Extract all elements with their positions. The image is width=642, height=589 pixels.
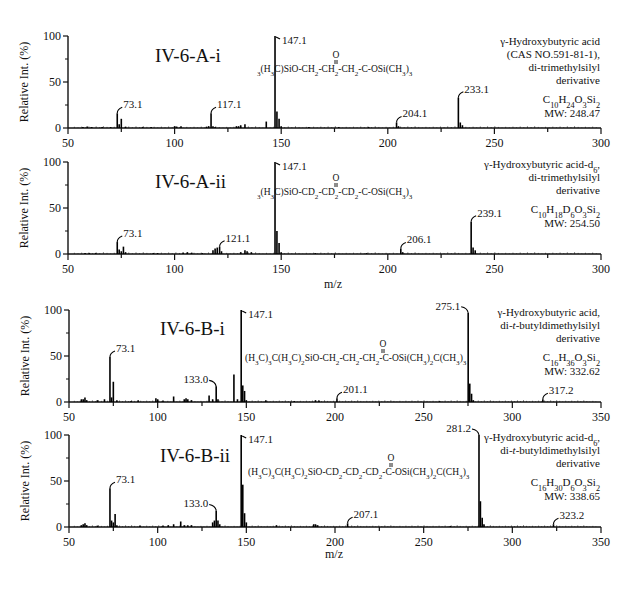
x-tick-label: 200	[379, 136, 397, 150]
peak-label: 275.1	[435, 300, 468, 313]
x-tick-label: 100	[149, 535, 167, 549]
svg-text:207.1: 207.1	[354, 508, 379, 520]
peak-label: 117.1	[211, 98, 241, 113]
peak-label: 323.2	[553, 509, 584, 524]
x-tick-label: 50	[63, 410, 75, 424]
x-tick-label: 300	[503, 535, 521, 549]
chemical-structure: 3(H3C)SiO-CD2-CD2-CD2-C-OSi(CH3)3O	[257, 173, 413, 201]
compound-name-line: di-trimethylsilyl	[529, 61, 601, 73]
svg-text:121.1: 121.1	[226, 232, 251, 244]
x-tick-label: 150	[237, 410, 255, 424]
compound-name-line: derivative	[556, 74, 600, 86]
peak-label: 147.1	[276, 160, 307, 172]
svg-text:233.1: 233.1	[464, 83, 489, 95]
compound-name-line: di-t-butyldimethylsilyl	[500, 444, 600, 456]
spectrum-panel-IV-6-A-i: 05010050100150200250300Relative Int. (%)…	[17, 29, 610, 150]
peak-label: 73.1	[110, 473, 135, 488]
svg-text:O: O	[388, 453, 395, 463]
x-tick-label: 350	[592, 410, 610, 424]
spectrum-panel-IV-6-A-ii: 05010050100150200250300Relative Int. (%)…	[17, 155, 610, 291]
x-tick-label: 50	[63, 535, 75, 549]
peak-label: 201.1	[337, 383, 368, 398]
panel-title: IV-6-A-i	[155, 45, 221, 66]
peak-label: 73.1	[110, 342, 135, 357]
y-tick-label: 0	[55, 121, 61, 135]
y-tick-label: 0	[56, 520, 62, 534]
svg-text:(H3C)3C(H3C)2SiO-CD2-CD2-CD2-C: (H3C)3C(H3C)2SiO-CD2-CD2-CD2-C-OSi(CH3)2…	[248, 467, 470, 481]
svg-text:133.0: 133.0	[183, 497, 208, 509]
svg-text:73.1: 73.1	[123, 227, 142, 239]
svg-text:201.1: 201.1	[343, 383, 368, 395]
spectrum-panel-IV-6-B-i: 05010050100150200250300350Relative Int. …	[18, 300, 610, 424]
peak-label: 121.1	[220, 232, 251, 247]
svg-text:3(H3C)SiO-CD2-CD2-CD2-C-OSi(CH: 3(H3C)SiO-CD2-CD2-CD2-C-OSi(CH3)3	[257, 187, 413, 201]
x-tick-label: 100	[149, 410, 167, 424]
x-tick-label: 150	[272, 262, 290, 276]
compound-info: γ-Hydroxybutyric acid(CAS NO.591-81-1),d…	[499, 35, 600, 119]
x-axis-title: m/z	[324, 277, 342, 291]
y-tick-label: 100	[43, 155, 61, 169]
mass-spectra-figure: 05010050100150200250300Relative Int. (%)…	[0, 0, 642, 589]
svg-text:117.1: 117.1	[217, 98, 241, 110]
svg-text:73.1: 73.1	[116, 342, 135, 354]
svg-text:O: O	[333, 173, 340, 183]
peak-label: 206.1	[401, 233, 432, 248]
svg-text:147.1: 147.1	[248, 308, 273, 320]
y-axis-title: Relative Int. (%)	[18, 441, 32, 521]
y-tick-label: 0	[56, 395, 62, 409]
y-tick-label: 100	[43, 29, 61, 43]
panel-title: IV-6-B-i	[160, 318, 225, 339]
compound-name-line: γ-Hydroxybutyric acid,	[496, 306, 600, 318]
x-tick-label: 50	[62, 136, 74, 150]
peak-label: 147.1	[242, 433, 273, 445]
svg-text:317.2: 317.2	[549, 384, 574, 396]
y-axis-title: Relative Int. (%)	[17, 168, 31, 248]
compound-name-line: (CAS NO.591-81-1),	[507, 48, 600, 61]
compound-info: γ-Hydroxybutyric acid-d6,di-t-butyldimet…	[483, 431, 600, 502]
svg-text:133.0: 133.0	[183, 373, 208, 385]
x-tick-label: 350	[592, 535, 610, 549]
peak-label: 133.0	[183, 497, 216, 510]
svg-text:73.1: 73.1	[123, 98, 142, 110]
chemical-structure: 3(H3C)SiO-CH2-CH2-CH2-C-OSi(CH3)3O	[257, 50, 413, 78]
spectrum-panel-IV-6-B-ii: 05010050100150200250300350Relative Int. …	[18, 422, 610, 561]
svg-text:73.1: 73.1	[116, 473, 135, 485]
compound-name-line: di-t-butyldimethylsilyl	[500, 319, 600, 331]
peak-label: 207.1	[348, 508, 379, 523]
compound-name-line: derivative	[556, 457, 600, 469]
y-tick-label: 50	[49, 201, 61, 215]
x-tick-label: 100	[166, 136, 184, 150]
compound-info: γ-Hydroxybutyric acid,di-t-butyldimethyl…	[496, 306, 600, 377]
y-tick-label: 50	[49, 75, 61, 89]
compound-name-line: di-trimethylsilyl	[529, 171, 601, 183]
peak-label: 147.1	[276, 34, 307, 46]
molecular-weight: MW: 338.65	[544, 490, 600, 502]
spectra-svg: 05010050100150200250300Relative Int. (%)…	[0, 0, 642, 589]
x-tick-label: 150	[237, 535, 255, 549]
chemical-structure: (H3C)3C(H3C)2SiO-CD2-CD2-CD2-C-OSi(CH3)2…	[248, 453, 470, 481]
peak-label: 281.2	[446, 422, 479, 435]
x-tick-label: 250	[485, 136, 503, 150]
svg-text:281.2: 281.2	[446, 422, 471, 434]
y-tick-label: 50	[50, 349, 62, 363]
chemical-structure: (H3C)3C(H3C)2SiO-CH2-CH2-CH2-C-OSi(CH3)2…	[245, 339, 467, 367]
peak-label: 73.1	[117, 227, 142, 242]
peaks	[81, 435, 553, 527]
svg-text:O: O	[380, 339, 387, 349]
peak-label: 147.1	[242, 308, 273, 320]
peak-label: 73.1	[117, 98, 142, 113]
peak-label: 204.1	[397, 107, 428, 122]
x-tick-label: 50	[62, 262, 74, 276]
peak-label: 133.0	[183, 373, 216, 386]
x-tick-label: 250	[485, 262, 503, 276]
svg-text:323.2: 323.2	[559, 509, 584, 521]
x-tick-label: 200	[379, 262, 397, 276]
svg-text:204.1: 204.1	[403, 107, 428, 119]
svg-text:147.1: 147.1	[282, 160, 307, 172]
molecular-weight: MW: 254.50	[544, 217, 600, 229]
x-tick-label: 200	[326, 410, 344, 424]
x-tick-label: 300	[592, 136, 610, 150]
svg-text:147.1: 147.1	[282, 34, 307, 46]
compound-name-line: derivative	[556, 332, 600, 344]
panel-title: IV-6-A-ii	[155, 171, 226, 192]
